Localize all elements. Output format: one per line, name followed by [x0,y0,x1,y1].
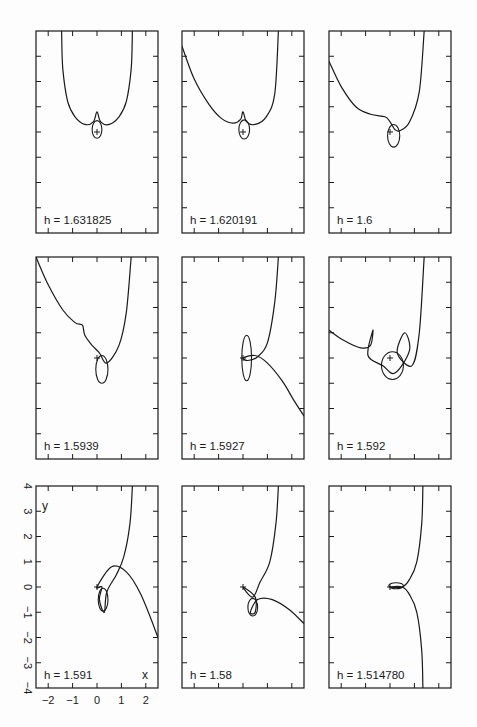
panel-h-label: h = 1.591 [44,669,92,681]
y-tick-label: −4 [22,682,34,695]
origin-marker-icon [94,129,100,135]
y-tick-label: −3 [22,656,34,669]
panel-6: h = 1.592 [329,257,451,459]
y-tick-label: 2 [22,533,34,539]
x-tick-label: −1 [66,694,79,706]
panel-2: h = 1.620191 [182,31,304,233]
origin-marker-icon [94,355,100,361]
x-tick-label: −2 [42,694,55,706]
panel-h-label: h = 1.5939 [44,440,99,452]
trajectory-curve [62,31,133,125]
panel-9: h = 1.514780 [329,486,451,688]
panel-5: h = 1.5927 [182,257,304,459]
trajectory-curve [36,257,131,363]
panel-8: h = 1.58 [182,486,304,688]
y-tick-label: −1 [22,606,34,619]
panel-3: h = 1.6 [329,31,451,233]
trajectory-curve [329,257,424,374]
trajectory-curve [243,257,304,416]
trajectory-loop [381,352,403,380]
panel-h-label: h = 1.6 [337,214,373,226]
panel-h-label: h = 1.514780 [337,669,404,681]
y-tick-label: 4 [22,483,34,489]
y-tick-label: 0 [22,584,34,590]
panel-h-label: h = 1.631825 [44,214,111,226]
panel-h-label: h = 1.592 [337,440,385,452]
origin-marker-icon [387,584,393,590]
x-tick-label: 2 [143,694,149,706]
panel-h-label: h = 1.58 [190,669,232,681]
panel-7: h = 1.591−2−1012−4−3−2−101234xy [22,483,158,706]
trajectory-loop [96,355,108,383]
trajectory-curve [390,486,423,688]
x-tick-label: 0 [94,694,100,706]
trajectory-curve [329,31,424,131]
panel-1: h = 1.631825 [36,31,158,233]
x-tick-label: 1 [118,694,124,706]
origin-marker-icon [387,355,393,361]
trajectory-loop [239,120,250,139]
panel-4: h = 1.5939 [36,257,158,459]
trajectory-curve [182,31,278,125]
y-tick-label: 1 [22,559,34,565]
origin-marker-icon [240,129,246,135]
x-axis-label: x [142,668,148,682]
y-axis-label: y [42,499,48,513]
panel-h-label: h = 1.5927 [190,440,245,452]
origin-marker-icon [94,584,100,590]
y-tick-label: −2 [22,631,34,644]
trajectory-curve [97,486,158,638]
origin-marker-icon [240,584,246,590]
trajectory-curve [243,486,304,624]
figure-grid: h = 1.631825h = 1.620191h = 1.6h = 1.593… [0,0,477,727]
panel-h-label: h = 1.620191 [190,214,257,226]
y-tick-label: 3 [22,508,34,514]
